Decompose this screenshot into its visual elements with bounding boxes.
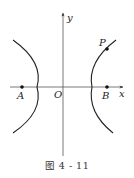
point-p xyxy=(105,47,109,51)
point-p-label: P xyxy=(98,37,106,48)
origin-label: O xyxy=(54,89,62,100)
hyperbola-right-branch xyxy=(91,40,116,133)
point-b-label: B xyxy=(101,90,109,101)
hyperbola-left-branch xyxy=(13,40,38,133)
y-axis-label: y xyxy=(66,12,73,23)
point-a-label: A xyxy=(16,90,24,101)
point-a xyxy=(20,85,24,89)
x-axis-label: x xyxy=(119,88,125,99)
diagram-canvas: y x O A B P xyxy=(0,0,134,178)
figure-caption: 图 4 - 11 xyxy=(0,158,134,172)
point-b xyxy=(105,85,109,89)
hyperbola-figure: y x O A B P 图 4 - 11 xyxy=(0,0,134,178)
